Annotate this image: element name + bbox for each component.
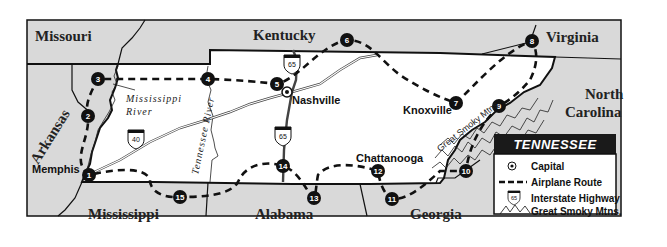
state-label-missouri: Missouri [35,28,92,44]
capital-icon [508,162,516,170]
map-legend: TENNESSEE Capital Airplane Route 65 Inte… [494,134,622,217]
svg-text:15: 15 [176,193,185,202]
svg-text:6: 6 [345,36,350,45]
city-label-knoxville: Knoxville [403,104,452,116]
interstate-65-north-shield: 65 [284,55,300,74]
legend-label-interstate: Interstate Highway [531,193,620,204]
svg-text:12: 12 [374,167,383,176]
svg-text:13: 13 [310,194,319,203]
svg-text:10: 10 [462,167,471,176]
state-label-virginia: Virginia [546,29,599,45]
svg-text:7: 7 [454,99,459,108]
svg-text:1: 1 [87,171,92,180]
svg-text:2: 2 [86,112,91,121]
city-label-nashville: Nashville [292,94,340,106]
state-label-north: North [585,86,624,102]
legend-label-capital: Capital [531,161,565,172]
interstate-40-shield: 40 [128,130,144,149]
state-label-mississippi: Mississippi [88,206,159,222]
legend-label-airplane-route: Airplane Route [531,177,603,188]
interstate-65-south-shield: 65 [275,127,291,146]
svg-text:3: 3 [96,75,101,84]
svg-text:65: 65 [288,61,296,68]
city-label-chattanooga: Chattanooga [356,152,424,164]
city-label-memphis: Memphis [32,163,80,175]
state-label-georgia: Georgia [410,206,462,222]
svg-text:5: 5 [275,80,280,89]
legend-title: TENNESSEE [513,137,596,152]
state-label-alabama: Alabama [255,206,314,222]
tennessee-map: 1 2 3 4 5 6 7 8 9 10 11 12 13 14 15 40 [0,0,667,247]
river-label-mississippi-2: River [125,106,153,117]
svg-text:65: 65 [511,195,517,201]
svg-text:65: 65 [279,133,287,140]
capital-nashville-icon [282,87,292,97]
river-label-mississippi-1: Mississippi [125,93,182,104]
svg-text:8: 8 [530,37,535,46]
svg-text:40: 40 [132,136,140,143]
svg-text:14: 14 [279,162,288,171]
legend-label-mountains: Great Smoky Mtns. [531,206,622,217]
state-label-carolina: Carolina [565,104,622,120]
svg-text:4: 4 [206,75,211,84]
svg-text:11: 11 [388,195,397,204]
state-label-kentucky: Kentucky [253,27,316,43]
